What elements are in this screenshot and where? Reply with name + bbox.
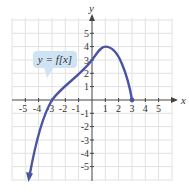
function-graph: x y -5 -4 -3 -2 -1 1 2 3 4 5 5 4 3 2 1 -…: [0, 0, 189, 192]
svg-text:4: 4: [84, 41, 89, 52]
svg-text:5: 5: [84, 28, 89, 39]
svg-text:1: 1: [103, 103, 108, 114]
svg-text:-2: -2: [59, 103, 67, 114]
svg-text:2: 2: [116, 103, 121, 114]
svg-text:-4: -4: [81, 148, 89, 159]
svg-text:-1: -1: [72, 103, 80, 114]
svg-text:5: 5: [156, 103, 161, 114]
svg-text:-5: -5: [81, 161, 89, 172]
svg-text:-2: -2: [81, 121, 89, 132]
svg-text:-3: -3: [81, 135, 89, 146]
svg-text:1: 1: [84, 81, 89, 92]
svg-text:3: 3: [130, 103, 135, 114]
x-tick-labels: -5 -4 -3 -2 -1 1 2 3 4 5: [19, 103, 161, 114]
x-axis-arrow-icon: [171, 97, 178, 103]
axes: [12, 18, 174, 181]
y-axis-label: y: [88, 2, 94, 14]
function-label-callout: y = f[x]: [33, 51, 77, 68]
y-axis-arrow-icon: [89, 14, 95, 21]
svg-text:-1: -1: [81, 108, 89, 119]
x-axis-label: x: [180, 94, 186, 106]
svg-text:4: 4: [143, 103, 148, 114]
svg-text:-5: -5: [19, 103, 27, 114]
svg-text:-4: -4: [33, 103, 41, 114]
curve-endpoint-dot: [130, 98, 135, 103]
